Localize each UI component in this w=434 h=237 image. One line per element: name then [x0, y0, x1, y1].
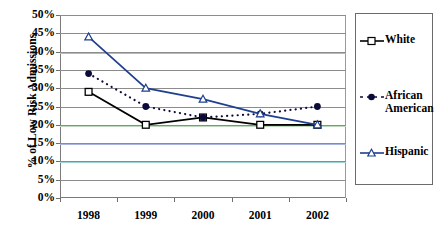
y-axis-tick-label: 30%	[13, 82, 55, 94]
data-point-white-2001[interactable]	[257, 121, 264, 128]
y-axis-tick-label: 0%	[13, 192, 55, 204]
y-axis-tick-label: 40%	[13, 46, 55, 58]
legend-key-african-american-icon	[359, 90, 385, 104]
cropped-title-text: · · · ·	[207, 0, 227, 2]
legend-label-white: White	[385, 33, 415, 46]
x-axis-tick-mark	[174, 198, 175, 202]
x-axis-tick-label: 2001	[230, 209, 290, 221]
x-axis-tick-mark	[60, 198, 61, 202]
y-axis-tick-mark	[56, 52, 60, 53]
x-axis-tick-mark	[346, 198, 347, 202]
cropped-title-strip: · · · ·	[0, 0, 434, 7]
y-axis-tick-mark	[56, 70, 60, 71]
y-axis-tick-label: 45%	[13, 28, 55, 40]
y-axis-tick-mark	[56, 15, 60, 16]
y-axis-tick-label: 15%	[13, 137, 55, 149]
x-axis-tick-label: 1998	[59, 209, 119, 221]
y-axis-tick-mark	[56, 107, 60, 108]
legend-key-hispanic-icon	[359, 146, 385, 160]
x-axis-tick-label: 1999	[116, 209, 176, 221]
y-axis-tick-label: 20%	[13, 119, 55, 131]
y-axis-tick-mark	[56, 161, 60, 162]
legend-box: White African American Hispanic	[355, 13, 433, 185]
x-axis-tick-label: 2002	[287, 209, 347, 221]
data-point-african-american-2000[interactable]	[200, 114, 207, 121]
data-point-african-american-2002[interactable]	[314, 103, 321, 110]
y-axis-tick-label: 5%	[13, 174, 55, 186]
x-axis-tick-mark	[117, 198, 118, 202]
y-axis-tick-mark	[56, 125, 60, 126]
chart-screenshot: · · · · % of Low Risk Admissions 0%5%10%…	[0, 0, 434, 237]
legend-label-hispanic: Hispanic	[385, 145, 428, 158]
y-axis-tick-mark	[56, 143, 60, 144]
y-axis-tick-label: 35%	[13, 64, 55, 76]
legend-label-african-american: African American	[385, 89, 434, 114]
y-axis-tick-mark	[56, 33, 60, 34]
y-axis-tick-mark	[56, 88, 60, 89]
legend-item-hispanic[interactable]: Hispanic	[359, 145, 428, 160]
y-axis-tick-label: 25%	[13, 101, 55, 113]
x-axis-tick-mark	[232, 198, 233, 202]
x-axis-tick-mark	[289, 198, 290, 202]
data-point-african-american-1999[interactable]	[142, 103, 149, 110]
y-axis-tick-label: 50%	[13, 9, 55, 21]
data-point-white-1998[interactable]	[85, 88, 92, 95]
y-axis-tick-mark	[56, 180, 60, 181]
data-series-layer	[60, 15, 346, 198]
y-axis-tick-label: 10%	[13, 156, 55, 168]
data-point-hispanic-1998[interactable]	[85, 33, 93, 40]
data-point-white-1999[interactable]	[142, 121, 149, 128]
data-point-african-american-1998[interactable]	[85, 70, 92, 77]
legend-item-white[interactable]: White	[359, 33, 415, 48]
plot-area	[60, 15, 346, 198]
legend-key-white-icon	[359, 34, 385, 48]
legend-item-african-american[interactable]: African American	[359, 89, 434, 114]
x-axis-tick-label: 2000	[173, 209, 233, 221]
